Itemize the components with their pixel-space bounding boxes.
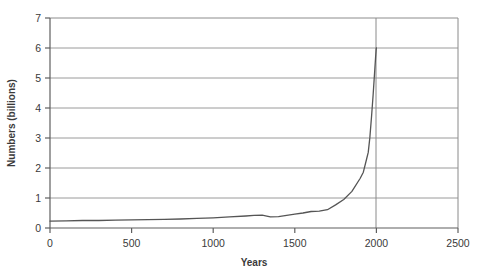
- y-tick-label: 0: [35, 222, 41, 234]
- y-axis-title: Numbers (billions): [6, 79, 17, 167]
- chart-background: [0, 0, 488, 280]
- population-growth-chart: 7 6 5 4 3 2 1 0 0 500 1000 1500 2000 250…: [0, 0, 488, 280]
- y-tick-label: 3: [35, 132, 41, 144]
- y-tick-label: 2: [35, 162, 41, 174]
- x-tick-label: 2000: [365, 237, 389, 249]
- y-tick-label: 7: [35, 12, 41, 24]
- x-tick-label: 2500: [446, 237, 470, 249]
- x-tick-label: 500: [123, 237, 141, 249]
- x-tick-label: 1500: [283, 237, 307, 249]
- y-tick-label: 6: [35, 42, 41, 54]
- y-tick-label: 1: [35, 192, 41, 204]
- y-tick-label: 4: [35, 102, 41, 114]
- x-tick-label: 1000: [202, 237, 226, 249]
- y-tick-label: 5: [35, 72, 41, 84]
- chart-canvas: 7 6 5 4 3 2 1 0 0 500 1000 1500 2000 250…: [0, 0, 488, 280]
- x-axis-title: Years: [241, 257, 268, 268]
- x-tick-label: 0: [47, 237, 53, 249]
